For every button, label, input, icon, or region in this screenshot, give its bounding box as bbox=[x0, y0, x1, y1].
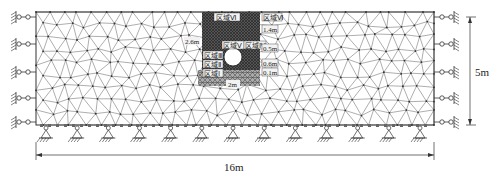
bottom-node-marker bbox=[320, 124, 323, 127]
mesh-edge bbox=[178, 12, 186, 23]
mesh-edge bbox=[196, 111, 207, 125]
mesh-node bbox=[425, 100, 427, 102]
mesh-edge bbox=[116, 114, 121, 125]
mesh-edge bbox=[424, 49, 434, 61]
mesh-node bbox=[82, 97, 84, 99]
mesh-edge bbox=[378, 72, 383, 88]
mesh-edge bbox=[57, 23, 73, 25]
mesh-edge bbox=[403, 86, 409, 101]
mesh-edge bbox=[306, 34, 313, 52]
mesh-node bbox=[378, 88, 380, 90]
mesh-edge bbox=[101, 112, 109, 125]
mesh-edge bbox=[335, 87, 340, 99]
mesh-edge bbox=[386, 35, 392, 52]
mesh-node bbox=[141, 23, 143, 25]
mesh-edge bbox=[69, 99, 78, 112]
mesh-edge bbox=[93, 73, 97, 86]
mesh-edge bbox=[409, 101, 426, 102]
mesh-edge bbox=[323, 60, 324, 73]
mesh-edge bbox=[141, 74, 150, 85]
pin-support-icon bbox=[349, 126, 365, 142]
mesh-node bbox=[404, 60, 406, 62]
mesh-edge bbox=[229, 99, 242, 102]
mesh-edge bbox=[310, 100, 322, 115]
mesh-edge bbox=[136, 85, 150, 89]
mesh-edge bbox=[404, 51, 415, 60]
mesh-edge bbox=[36, 100, 43, 110]
mesh-edge bbox=[178, 76, 187, 84]
mesh-edge bbox=[421, 62, 423, 74]
mesh-node bbox=[192, 84, 194, 86]
mesh-edge bbox=[207, 111, 211, 125]
mesh-edge bbox=[51, 51, 57, 60]
mesh-node bbox=[298, 24, 300, 26]
mesh-edge bbox=[150, 27, 153, 37]
mesh-edge bbox=[184, 101, 191, 109]
mesh-edge bbox=[70, 52, 76, 62]
mesh-edge bbox=[288, 12, 289, 23]
mesh-edge bbox=[192, 110, 207, 111]
mesh-edge bbox=[266, 89, 280, 91]
mesh-edge bbox=[365, 35, 371, 49]
mesh-edge bbox=[242, 100, 254, 102]
mesh-node bbox=[279, 88, 281, 90]
mesh-edge bbox=[375, 34, 386, 51]
fem-mesh-diagram: 区域Ⅵ 区域Ⅴ 区域Ⅳ 区域Ⅲ 区域Ⅱ 区域Ⅰ 区域Ⅵ 2.6m 1.4m 0.… bbox=[0, 0, 497, 179]
mesh-edge bbox=[187, 60, 194, 76]
mesh-edge bbox=[279, 112, 287, 125]
bottom-node-marker bbox=[376, 124, 379, 127]
width-label: 16m bbox=[224, 161, 244, 173]
mesh-edge bbox=[347, 35, 365, 36]
mesh-edge bbox=[392, 35, 398, 50]
mesh-node bbox=[109, 61, 111, 63]
bottom-node-marker bbox=[40, 124, 43, 127]
mesh-edge bbox=[299, 63, 306, 75]
dim-label-right-mid: 0.5m bbox=[262, 44, 278, 53]
mesh-edge bbox=[87, 51, 91, 60]
mesh-edge bbox=[189, 24, 200, 35]
mesh-edge bbox=[247, 100, 253, 115]
mesh-edge bbox=[148, 64, 163, 65]
mesh-edge bbox=[71, 78, 79, 86]
mesh-edge bbox=[266, 90, 270, 98]
mesh-edge bbox=[160, 84, 177, 87]
roller-support-icon bbox=[11, 116, 36, 129]
mesh-edge bbox=[195, 60, 198, 75]
mesh-node bbox=[120, 113, 122, 115]
mesh-edge bbox=[313, 52, 328, 53]
mesh-edge bbox=[299, 12, 307, 25]
mesh-edge bbox=[347, 36, 359, 50]
mesh-edge bbox=[297, 100, 311, 102]
mesh-edge bbox=[332, 12, 340, 23]
mesh-node bbox=[69, 51, 71, 53]
bottom-node-marker bbox=[224, 124, 227, 127]
mesh-node bbox=[72, 22, 74, 24]
mesh-edge bbox=[43, 36, 48, 51]
mesh-node bbox=[215, 97, 217, 99]
mesh-node bbox=[117, 61, 119, 63]
mesh-edge bbox=[163, 49, 171, 65]
mesh-edge bbox=[65, 85, 69, 99]
mesh-node bbox=[391, 60, 393, 62]
height-label: 5m bbox=[475, 66, 490, 78]
mesh-edge bbox=[171, 36, 181, 49]
mesh-edge bbox=[122, 86, 126, 100]
mesh-edge bbox=[229, 99, 236, 110]
width-dimension: 16m bbox=[36, 142, 434, 173]
mesh-edge bbox=[313, 27, 319, 37]
pin-support-icon bbox=[131, 126, 147, 142]
mesh-edge bbox=[36, 88, 52, 90]
mesh-node bbox=[53, 113, 55, 115]
mesh-edge bbox=[254, 100, 262, 114]
mesh-node bbox=[404, 34, 406, 36]
mesh-edge bbox=[133, 63, 148, 64]
mesh-edge bbox=[262, 112, 279, 114]
mesh-edge bbox=[398, 100, 406, 110]
mesh-edge bbox=[175, 101, 184, 112]
mesh-node bbox=[109, 111, 111, 113]
mesh-edge bbox=[98, 49, 110, 63]
mesh-node bbox=[88, 35, 90, 37]
mesh-edge bbox=[195, 49, 200, 60]
roller-support-icon bbox=[11, 92, 36, 105]
mesh-edge bbox=[181, 35, 189, 36]
